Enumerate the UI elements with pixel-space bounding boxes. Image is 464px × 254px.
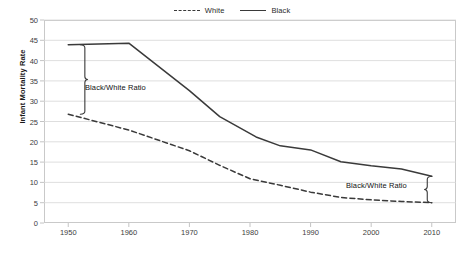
infant-mortality-line-chart: White Black Infant Mortality Rate 504540…: [0, 0, 464, 254]
brace-icon: [425, 176, 432, 202]
annotation-label-left: Black/White Ratio: [85, 83, 146, 92]
chart-canvas: [0, 0, 464, 254]
brace-icon: [80, 45, 87, 114]
series-line-black: [68, 43, 432, 176]
annotation-label-right: Black/White Ratio: [346, 181, 407, 190]
